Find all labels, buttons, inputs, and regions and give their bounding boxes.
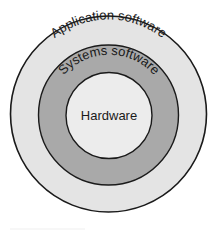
concentric-layers-diagram: Application software Systems software Ha…	[0, 0, 219, 231]
hardware-label: Hardware	[81, 108, 137, 123]
